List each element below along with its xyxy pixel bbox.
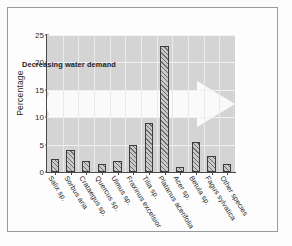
y-tick-label-5: 5 bbox=[26, 140, 44, 149]
x-axis-labels: Salix sp.Sorbus ariaCrataegus sp.Quercus… bbox=[47, 174, 247, 244]
y-tick-label-15: 15 bbox=[26, 85, 44, 94]
gridline-x-11 bbox=[219, 35, 220, 172]
gridline-x-2 bbox=[78, 35, 79, 172]
bar-platanus-acerifolia bbox=[160, 46, 168, 172]
x-tick-mark-5 bbox=[133, 172, 134, 175]
y-axis-line bbox=[46, 34, 47, 173]
gridline-x-5 bbox=[125, 35, 126, 172]
y-tick-label-25: 25 bbox=[26, 31, 44, 40]
bar-tilia-sp bbox=[145, 123, 153, 172]
plot-area bbox=[47, 35, 235, 172]
bar-sorbus-aria bbox=[66, 150, 74, 172]
y-axis-ticks: 0510152025 bbox=[26, 30, 44, 176]
y-tick-label-0: 0 bbox=[26, 168, 44, 177]
gridline-x-4 bbox=[110, 35, 111, 172]
bar-fraxinus-excelsior bbox=[129, 145, 137, 172]
gridline-x-3 bbox=[94, 35, 95, 172]
bar-chart: Percentage 0510152025 Decreasing water d… bbox=[0, 0, 292, 246]
gridline-x-1 bbox=[63, 35, 64, 172]
x-tick-mark-8 bbox=[180, 172, 181, 175]
gridline-x-8 bbox=[172, 35, 173, 172]
bar-fagus-sylvatica bbox=[207, 156, 215, 172]
x-tick-mark-9 bbox=[196, 172, 197, 175]
gridline-x-10 bbox=[204, 35, 205, 172]
bar-other-species bbox=[223, 164, 231, 172]
x-tick-mark-6 bbox=[149, 172, 150, 175]
gridline-x-9 bbox=[188, 35, 189, 172]
gridline-x-6 bbox=[141, 35, 142, 172]
y-tick-label-10: 10 bbox=[26, 113, 44, 122]
bar-quercus-sp bbox=[98, 164, 106, 172]
chart-page: Percentage 0510152025 Decreasing water d… bbox=[0, 0, 292, 246]
x-tick-mark-11 bbox=[227, 172, 228, 175]
x-tick-mark-3 bbox=[102, 172, 103, 175]
bar-crataegus-sp bbox=[82, 161, 90, 172]
arrow-annotation-label: Decreasing water demand bbox=[22, 60, 116, 69]
gridline-x-7 bbox=[157, 35, 158, 172]
x-tick-mark-0 bbox=[55, 172, 56, 175]
bar-ulmus-sp bbox=[113, 161, 121, 172]
bar-salix-sp bbox=[51, 159, 59, 172]
x-tick-mark-2 bbox=[86, 172, 87, 175]
bar-betula-sp bbox=[192, 142, 200, 172]
